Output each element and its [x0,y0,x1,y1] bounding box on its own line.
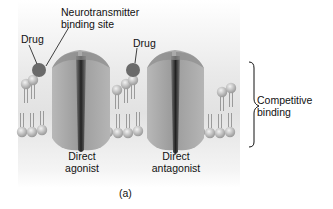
label-neurotransmitter-binding-site: Neurotransmitter binding site [61,6,139,30]
drug-molecule-antagonist [126,63,140,77]
label-direct-agonist: Direct agonist [62,150,102,174]
receptor-agonist [52,50,110,152]
label-drug-right: Drug [133,37,156,49]
leader-line-drug-right [135,48,137,63]
label-direct-antagonist: Direct antagonist [146,150,206,174]
label-drug-left: Drug [21,33,44,45]
panel-tag: (a) [119,187,132,199]
receptor-antagonist [147,50,204,154]
label-competitive-binding: Competitive binding [257,94,312,118]
leader-line-drug-left [29,45,37,64]
drug-molecule-agonist [32,63,46,77]
